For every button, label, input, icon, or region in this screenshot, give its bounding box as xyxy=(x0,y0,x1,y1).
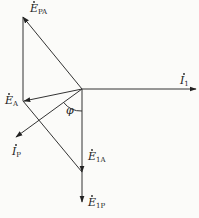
phasor-vectors: EPAEAI1IPE1AE1P xyxy=(4,1,196,210)
phasor-dot-icon xyxy=(91,149,93,151)
phasor-dot-icon xyxy=(15,144,17,146)
vector-i-1: I1 xyxy=(82,73,196,89)
arrow-icon xyxy=(23,17,82,89)
angle-phi: φ xyxy=(64,102,82,117)
vector-e-1p: E1P xyxy=(82,172,105,210)
phasor-dot-icon xyxy=(183,73,185,75)
construction-lines xyxy=(23,17,82,172)
phasor-dot-icon xyxy=(33,1,35,3)
vector-i-p: IP xyxy=(11,89,82,159)
phasor-dot-icon xyxy=(8,93,10,95)
vector-label: IP xyxy=(11,145,21,159)
phasor-dot-icon xyxy=(91,195,93,197)
angle-phi-label: φ xyxy=(66,104,74,117)
vector-label: EPA xyxy=(29,2,48,16)
phasor-diagram: EPAEAI1IPE1AE1P φ xyxy=(0,0,199,218)
vector-label: E1P xyxy=(87,196,105,210)
vector-e-pa: EPA xyxy=(23,1,82,89)
vector-label: I1 xyxy=(179,74,189,88)
vector-label: EA xyxy=(4,94,19,108)
vector-e-1a: E1A xyxy=(82,89,106,172)
phasor-canvas: EPAEAI1IPE1AE1P φ xyxy=(0,0,199,218)
vector-label: E1A xyxy=(87,150,106,164)
